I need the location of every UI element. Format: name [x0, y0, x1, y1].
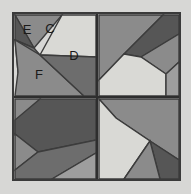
quilt-block-svg: ECDF	[0, 0, 191, 194]
quilt-block-figure: ECDF	[0, 0, 191, 194]
quadrant-bottom-left	[15, 99, 96, 179]
label-d: D	[69, 48, 78, 63]
quadrant-top-right	[99, 15, 179, 96]
quadrant-bottom-right	[99, 99, 179, 179]
label-e: E	[23, 22, 32, 37]
label-f: F	[35, 67, 43, 82]
label-c: C	[45, 21, 54, 36]
